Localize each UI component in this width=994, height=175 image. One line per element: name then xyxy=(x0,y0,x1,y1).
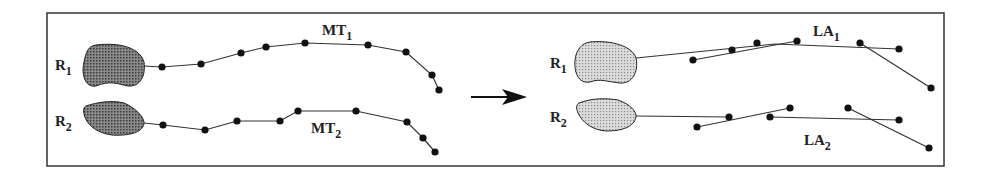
approximation-segment xyxy=(770,117,899,120)
segment-endpoint xyxy=(786,104,793,111)
segment-endpoint xyxy=(856,39,863,46)
region-r2-left xyxy=(84,102,144,136)
track-point xyxy=(301,39,308,46)
segment-endpoint xyxy=(766,113,773,120)
segment-endpoint xyxy=(725,113,732,120)
track-point xyxy=(158,63,165,70)
segment-endpoint xyxy=(927,84,934,91)
microtubule-diagram: R1R2MT1MT2R1R2LA1LA2 xyxy=(0,0,994,175)
region-r1-left xyxy=(83,44,144,86)
segment-endpoint xyxy=(693,123,700,130)
region-label-right-2: R2 xyxy=(550,109,567,130)
track-point xyxy=(431,148,438,155)
la-label-1: LA1 xyxy=(813,23,840,44)
la-label-2: LA2 xyxy=(804,132,831,153)
track-point xyxy=(402,48,409,55)
segment-endpoint xyxy=(895,116,902,123)
region-label-right-1: R1 xyxy=(550,55,567,76)
segment-endpoint xyxy=(793,37,800,44)
track-point xyxy=(233,117,240,124)
line-approximations xyxy=(636,37,935,151)
mt-label-2: MT2 xyxy=(311,120,341,141)
approximation-segment xyxy=(636,116,729,117)
labels: R1R2MT1MT2R1R2LA1LA2 xyxy=(55,22,840,153)
microtubule-track xyxy=(144,111,435,152)
track-point xyxy=(159,121,166,128)
track-point xyxy=(419,134,426,141)
track-point xyxy=(276,117,283,124)
track-point xyxy=(403,118,410,125)
track-point xyxy=(294,107,301,114)
track-point xyxy=(237,49,244,56)
track-point xyxy=(197,60,204,67)
segment-endpoint xyxy=(689,56,696,63)
track-point xyxy=(201,126,208,133)
region-label-left-1: R1 xyxy=(55,57,72,78)
approximation-segment xyxy=(848,108,929,148)
track-point xyxy=(352,107,359,114)
track-point xyxy=(364,41,371,48)
segment-endpoint xyxy=(925,144,932,151)
transform-arrow-icon xyxy=(471,89,527,105)
segment-endpoint xyxy=(753,39,760,46)
region-r2-right xyxy=(577,99,636,131)
segment-endpoint xyxy=(895,45,902,52)
region-r1-right xyxy=(575,42,637,83)
microtubule-track xyxy=(144,43,439,90)
segment-endpoint xyxy=(844,104,851,111)
track-point xyxy=(428,71,435,78)
microtubule-tracks xyxy=(144,39,443,155)
segment-endpoint xyxy=(728,46,735,53)
track-point xyxy=(435,86,442,93)
region-label-left-2: R2 xyxy=(55,113,72,134)
mt-label-1: MT1 xyxy=(322,22,352,43)
track-point xyxy=(262,43,269,50)
